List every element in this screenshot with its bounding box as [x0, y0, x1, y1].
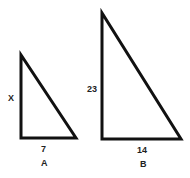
- triangle-a: [21, 55, 76, 138]
- triangle-b-horizontal-label: 14: [137, 146, 147, 155]
- triangle-b-vertical-label: 23: [87, 85, 97, 94]
- triangle-a-horizontal-label: 7: [41, 145, 46, 154]
- triangle-a-name: A: [41, 159, 48, 168]
- triangle-a-vertical-label: X: [8, 94, 14, 103]
- triangle-b-name: B: [140, 160, 147, 169]
- triangle-b: [102, 13, 181, 139]
